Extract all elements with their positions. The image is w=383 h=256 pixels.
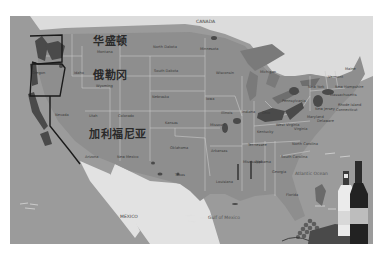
label-ohio: Ohio [262, 112, 270, 116]
label-illinois: Illinois [221, 112, 232, 116]
label-delaware: Delaware [317, 120, 334, 124]
label-iowa: Iowa [206, 98, 214, 102]
label-arizona: Arizona [85, 156, 99, 160]
label-maine: Maine [345, 68, 356, 72]
label-oregon: Oregon [32, 72, 45, 76]
label-new-york: New York [308, 86, 324, 90]
label-montana: Montana [97, 51, 113, 55]
label-wyoming: Wyoming [96, 85, 113, 89]
label-west-virginia: West Virginia [276, 124, 300, 128]
label-wisconsin: Wisconsin [216, 72, 234, 76]
label-colorado: Colorado [118, 115, 134, 119]
wine-region-map: 华盛顿 俄勒冈 加利福尼亚 CANADA MEXICO Atlantic Oce… [10, 16, 373, 244]
label-michigan: Michigan [260, 71, 276, 75]
label-new-hampshire: New Hampshire [335, 86, 363, 90]
label-oklahoma: Oklahoma [170, 147, 188, 151]
map-graphic [10, 16, 373, 244]
label-new-jersey: New Jersey [315, 108, 335, 112]
label-gulf-of-mexico: Gulf of Mexico [208, 216, 240, 221]
label-kansas: Kansas [165, 122, 178, 126]
label-washington-cn: 华盛顿 [93, 36, 128, 47]
label-connecticut: Connecticut [336, 109, 358, 113]
label-missouri: Missouri [210, 124, 225, 128]
label-california-cn: 加利福尼亚 [89, 129, 147, 140]
label-new-mexico: New Mexico [117, 156, 139, 160]
label-florida: Florida [286, 194, 298, 198]
label-north-dakota: North Dakota [153, 46, 177, 50]
label-kentucky: Kentucky [257, 131, 273, 135]
label-tennessee: Tennessee [248, 144, 267, 148]
label-north-carolina: North Carolina [292, 143, 318, 147]
label-nevada: Nevada [55, 114, 69, 118]
label-canada: CANADA [196, 20, 215, 25]
label-mexico: MEXICO [120, 215, 138, 220]
label-texas: Texas [175, 174, 185, 178]
label-alabama: Alabama [255, 161, 271, 165]
label-virginia: Virginia [294, 128, 308, 132]
label-arkansas: Arkansas [211, 150, 227, 154]
label-indiana: Indiana [242, 111, 255, 115]
label-utah: Utah [89, 115, 98, 119]
label-atlantic-ocean: Atlantic Ocean [295, 172, 328, 177]
label-louisiana: Louisiana [216, 181, 233, 185]
label-idaho: Idaho [74, 72, 84, 76]
label-georgia: Georgia [272, 171, 286, 175]
label-south-dakota: South Dakota [154, 70, 178, 74]
label-nebraska: Nebraska [152, 96, 169, 100]
label-oregon-cn: 俄勒冈 [93, 70, 128, 81]
label-vermont: Vermont [328, 76, 343, 80]
label-massachusetts: Massachusetts [330, 94, 357, 98]
label-minnesota: Minnesota [200, 48, 219, 52]
label-pennsylvania: Pennsylvania [282, 100, 306, 104]
label-south-carolina: South Carolina [281, 156, 307, 160]
